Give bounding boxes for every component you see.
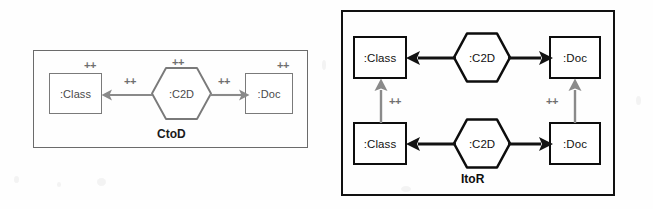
itor-c2d-node-bottom: :C2D — [452, 117, 512, 170]
ctod-c2d-node: :C2D — [150, 66, 213, 121]
scan-speck — [14, 176, 19, 183]
itor-doc-node-top: :Doc — [549, 36, 601, 79]
itor-class-top-label: :Class — [364, 52, 397, 64]
itor-c2d-node-top: :C2D — [452, 31, 512, 84]
itor-doc-link-marker: ++ — [546, 96, 558, 107]
ctod-left-edge-marker: ++ — [124, 76, 136, 87]
ctod-doc-label: :Doc — [257, 88, 280, 100]
ctod-doc-node: :Doc — [245, 73, 293, 114]
itor-c2d-bottom-label: :C2D — [452, 117, 512, 170]
scan-speck — [322, 60, 326, 70]
itor-doc-bottom-to-doc-top-arrow — [565, 77, 585, 125]
ctod-class-node: :Class — [49, 73, 102, 114]
itor-c2d-bottom-to-doc-bottom-arrow — [507, 134, 555, 154]
ctod-right-edge-marker: ++ — [218, 76, 230, 87]
ctod-doc-created-marker: ++ — [277, 60, 289, 71]
itor-caption: ItoR — [461, 173, 484, 185]
scan-speck — [636, 96, 641, 105]
ctod-caption: CtoD — [157, 128, 186, 140]
ctod-class-created-marker: ++ — [84, 60, 96, 71]
ctod-c2d-to-class-arrow — [100, 85, 154, 105]
itor-class-node-top: :Class — [353, 36, 407, 79]
itor-c2d-top-label: :C2D — [452, 31, 512, 84]
ctod-c2d-to-doc-arrow — [209, 85, 251, 105]
ctod-class-label: :Class — [60, 88, 91, 100]
itor-doc-node-bottom: :Doc — [549, 122, 601, 165]
itor-c2d-bottom-to-class-bottom-arrow — [404, 134, 458, 154]
itor-class-bottom-to-class-top-arrow — [371, 77, 391, 125]
itor-class-bottom-label: :Class — [364, 138, 397, 150]
diagram-canvas: :Class ++ :C2D ++ :Doc ++ ++ ++ CtoD :Cl… — [0, 0, 653, 209]
ctod-c2d-label: :C2D — [150, 66, 213, 121]
ctod-c2d-created-marker: ++ — [172, 57, 184, 68]
itor-doc-top-label: :Doc — [563, 52, 587, 64]
scan-speck — [57, 182, 61, 187]
itor-c2d-top-to-doc-top-arrow — [507, 48, 555, 68]
scan-speck — [97, 178, 106, 186]
itor-class-node-bottom: :Class — [353, 122, 407, 165]
itor-doc-bottom-label: :Doc — [563, 138, 587, 150]
itor-c2d-top-to-class-top-arrow — [404, 48, 458, 68]
itor-class-link-marker: ++ — [389, 96, 401, 107]
